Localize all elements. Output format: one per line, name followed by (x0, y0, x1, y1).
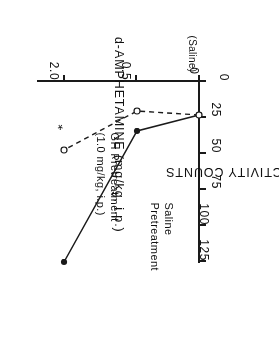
data-point-gh-0 (196, 112, 202, 118)
plot-surface: 0 25 50 75 100 125 0 0.5 2.0 (Saline) d-… (0, 0, 279, 344)
rotated-plot-canvas: 0 25 50 75 100 125 0 0.5 2.0 (Saline) d-… (0, 0, 279, 344)
series-line-gh (64, 111, 199, 150)
figure-root: 0 25 50 75 100 125 0 0.5 2.0 (Saline) d-… (0, 0, 279, 344)
series-line-saline (64, 115, 199, 262)
data-point-gh-0-5 (134, 108, 140, 114)
data-point-saline-0-5 (134, 128, 140, 134)
data-point-gh-2-0 (61, 147, 67, 153)
data-layer (0, 0, 279, 344)
data-point-saline-2-0 (61, 259, 67, 265)
